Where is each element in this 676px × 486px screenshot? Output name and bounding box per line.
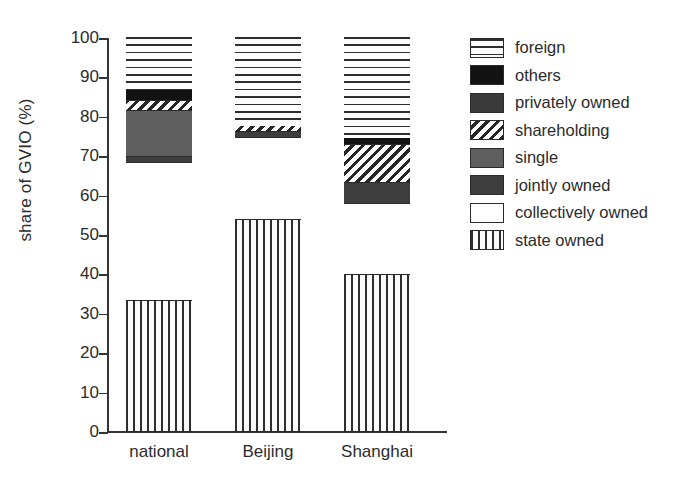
segment-foreign[interactable]	[126, 37, 192, 90]
legend-swatch-others-icon	[470, 65, 504, 85]
legend-swatch-privately-owned-icon	[470, 93, 504, 113]
segment-shareholding[interactable]	[344, 145, 410, 183]
segment-collectively-owned[interactable]	[126, 163, 192, 301]
legend-swatch-foreign-icon	[470, 38, 504, 58]
legend-label: state owned	[515, 231, 604, 250]
x-label-beijing: Beijing	[208, 442, 328, 462]
y-tick-label: 60	[80, 186, 99, 206]
legend-swatch-state-owned-icon	[470, 230, 504, 250]
legend-swatch-shareholding-icon	[470, 120, 504, 140]
y-tick-label: 30	[80, 304, 99, 324]
legend-item-single[interactable]: single	[470, 144, 670, 172]
segment-jointly-owned[interactable]	[344, 183, 410, 205]
segment-state-owned[interactable]	[235, 220, 301, 431]
bar-beijing[interactable]	[235, 38, 301, 432]
legend-item-collectively-owned[interactable]: collectively owned	[470, 199, 670, 227]
segment-others[interactable]	[126, 90, 192, 102]
legend-swatch-collectively-owned-icon	[470, 203, 504, 223]
legend-item-privately-owned[interactable]: privately owned	[470, 89, 670, 117]
segment-others[interactable]	[344, 138, 410, 146]
y-tick-label: 70	[80, 146, 99, 166]
bar-national[interactable]	[126, 38, 192, 432]
y-tick-label: 0	[90, 422, 99, 442]
segment-state-owned[interactable]	[126, 301, 192, 431]
plot-area: 100 90 80 70 60 50 40 30 20 10 0	[108, 38, 428, 432]
legend-item-foreign[interactable]: foreign	[470, 34, 670, 62]
chart-container: share of GVIO (%) 100 90 80 70 60 50 40 …	[0, 0, 676, 486]
legend-item-shareholding[interactable]: shareholding	[470, 117, 670, 145]
y-tick-label: 90	[80, 67, 99, 87]
segment-state-owned[interactable]	[344, 275, 410, 431]
legend-swatch-jointly-owned-icon	[470, 175, 504, 195]
legend-label: privately owned	[515, 93, 630, 112]
segment-single[interactable]	[126, 111, 192, 157]
y-axis-title: share of GVIO (%)	[16, 70, 36, 270]
legend-label: single	[515, 148, 558, 167]
x-label-shanghai: Shanghai	[317, 442, 437, 462]
y-tick-label: 50	[80, 225, 99, 245]
legend-swatch-single-icon	[470, 148, 504, 168]
legend-label: foreign	[515, 38, 565, 57]
x-label-national: national	[99, 442, 219, 462]
legend-item-state-owned[interactable]: state owned	[470, 227, 670, 255]
legend-label: collectively owned	[515, 203, 648, 222]
y-tick-label: 20	[80, 343, 99, 363]
segment-foreign[interactable]	[235, 37, 301, 126]
legend-label: shareholding	[515, 121, 610, 140]
segment-shareholding[interactable]	[126, 101, 192, 111]
segment-collectively-owned[interactable]	[235, 138, 301, 221]
segment-foreign[interactable]	[344, 37, 410, 138]
bar-shanghai[interactable]	[344, 38, 410, 432]
legend-label: others	[515, 66, 561, 85]
y-tick-label: 100	[71, 28, 99, 48]
legend-item-jointly-owned[interactable]: jointly owned	[470, 172, 670, 200]
legend-item-others[interactable]: others	[470, 62, 670, 90]
y-tick-label: 80	[80, 107, 99, 127]
y-tick-label: 10	[80, 383, 99, 403]
legend: foreign others privately owned sharehold…	[470, 34, 670, 254]
segment-collectively-owned[interactable]	[344, 204, 410, 275]
y-tick-label: 40	[80, 264, 99, 284]
legend-label: jointly owned	[515, 176, 610, 195]
